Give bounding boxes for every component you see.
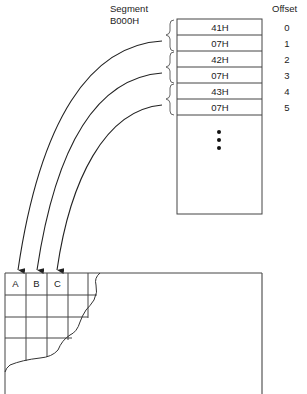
memory-diagram: Segment B000H Offset 41H 07H 42H 07H 43H…	[0, 0, 307, 394]
screen-cell-a: A	[12, 278, 19, 289]
offset-value: 1	[284, 38, 289, 49]
offset-value: 2	[284, 54, 289, 65]
ellipsis-dot	[217, 130, 221, 134]
offset-header: Offset	[272, 3, 298, 14]
screen-display: A B C	[5, 273, 262, 394]
ellipsis-dot	[217, 138, 221, 142]
screen-cell-c: C	[54, 278, 61, 289]
memory-cell: 41H	[211, 22, 229, 33]
memory-block: 41H 07H 42H 07H 43H 07H	[177, 19, 262, 214]
brace-group	[166, 20, 174, 115]
offset-value: 5	[284, 102, 289, 113]
offset-column: 0 1 2 3 4 5	[284, 22, 289, 113]
mapping-arrows	[18, 41, 162, 270]
screen-cell-b: B	[33, 278, 39, 289]
memory-cell: 07H	[211, 102, 229, 113]
offset-value: 4	[284, 86, 289, 97]
segment-label: Segment	[110, 3, 148, 14]
memory-cell: 43H	[211, 86, 229, 97]
arrow-c	[57, 105, 162, 270]
offset-value: 0	[284, 22, 289, 33]
offset-value: 3	[284, 70, 289, 81]
memory-cell: 42H	[211, 54, 229, 65]
memory-cell: 07H	[211, 38, 229, 49]
memory-cell: 07H	[211, 70, 229, 81]
segment-address: B000H	[110, 15, 139, 26]
arrow-a	[18, 41, 162, 270]
ellipsis-dot	[217, 146, 221, 150]
arrow-b	[37, 73, 162, 270]
